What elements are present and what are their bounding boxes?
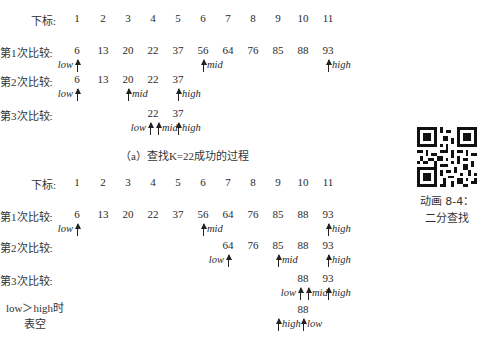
index-cell: 2: [100, 176, 106, 188]
value-cell: 64: [223, 208, 234, 220]
low-arrow-icon: [228, 255, 229, 267]
value-cell: 6: [74, 208, 80, 220]
mid-arrow-icon: [308, 288, 309, 300]
index-cell: 11: [323, 12, 334, 24]
value-cell: 13: [98, 44, 109, 56]
low-pointer-label: low: [281, 287, 296, 298]
row-label: 第2次比较:: [0, 73, 53, 89]
index-cell: 3: [125, 12, 131, 24]
index-cell: 8: [250, 176, 256, 188]
high-arrow-icon: [328, 255, 329, 267]
index-cell: 9: [275, 176, 281, 188]
value-cell: 56: [198, 44, 209, 56]
index-cell: 1: [74, 176, 80, 188]
value-cell: 64: [223, 239, 234, 251]
low-arrow-icon: [150, 123, 151, 135]
value-cell: 76: [248, 239, 259, 251]
high-arrow-icon: [278, 319, 279, 331]
index-cell: 10: [298, 176, 309, 188]
index-cell: 4: [150, 176, 156, 188]
index-cell: 10: [298, 12, 309, 24]
high-pointer-label: high: [182, 122, 201, 133]
value-cell: 88: [298, 303, 309, 315]
value-cell: 88: [298, 208, 309, 220]
value-cell: 76: [248, 208, 259, 220]
value-cell: 13: [98, 73, 109, 85]
animation-label: 动画 8-4：: [408, 192, 486, 208]
value-cell: 88: [298, 272, 309, 284]
value-cell: 6: [74, 44, 80, 56]
value-cell: 20: [123, 73, 134, 85]
value-cell: 88: [298, 239, 309, 251]
value-cell: 37: [173, 73, 184, 85]
mid-pointer-label: mid: [207, 59, 223, 70]
low-arrow-icon: [77, 89, 78, 101]
mid-pointer-label: mid: [282, 254, 298, 265]
index-cell: 9: [275, 12, 281, 24]
index-label: 下标:: [31, 12, 56, 28]
high-pointer-label: high: [332, 59, 351, 70]
low-pointer-label: low: [58, 59, 73, 70]
index-label: 下标:: [31, 176, 56, 192]
high-arrow-icon: [178, 123, 179, 135]
value-cell: 64: [223, 44, 234, 56]
index-cell: 4: [150, 12, 156, 24]
low-pointer-label: low: [307, 318, 322, 329]
value-cell: 20: [123, 44, 134, 56]
high-pointer-label: high: [332, 254, 351, 265]
index-cell: 7: [225, 176, 231, 188]
low-arrow-icon: [303, 319, 304, 331]
index-cell: 11: [323, 176, 334, 188]
caption-a: （a）查找K=22成功的过程: [120, 147, 249, 163]
index-cell: 1: [74, 12, 80, 24]
value-cell: 85: [273, 208, 284, 220]
high-arrow-icon: [328, 60, 329, 72]
row-label: 第1次比较:: [0, 44, 53, 60]
value-cell: 76: [248, 44, 259, 56]
value-cell: 88: [298, 44, 309, 56]
low-arrow-icon: [77, 224, 78, 236]
value-cell: 6: [74, 73, 80, 85]
high-pointer-label: high: [182, 88, 201, 99]
index-cell: 8: [250, 12, 256, 24]
row-label: 第3次比较:: [0, 107, 53, 123]
low-arrow-icon: [77, 60, 78, 72]
low-pointer-label: low: [58, 88, 73, 99]
index-cell: 3: [125, 176, 131, 188]
mid-arrow-icon: [158, 123, 159, 135]
index-cell: 5: [175, 176, 181, 188]
low-pointer-label: low: [209, 254, 224, 265]
value-cell: 93: [323, 44, 334, 56]
value-cell: 37: [173, 44, 184, 56]
index-cell: 6: [200, 176, 206, 188]
index-cell: 5: [175, 12, 181, 24]
value-cell: 22: [148, 208, 159, 220]
mid-pointer-label: mid: [207, 223, 223, 234]
high-pointer-label: high: [332, 223, 351, 234]
mid-pointer-label: mid: [132, 88, 148, 99]
high-pointer-label: high: [282, 318, 301, 329]
index-cell: 6: [200, 12, 206, 24]
value-cell: 93: [323, 272, 334, 284]
value-cell: 56: [198, 208, 209, 220]
mid-arrow-icon: [203, 224, 204, 236]
value-cell: 13: [98, 208, 109, 220]
low-arrow-icon: [300, 288, 301, 300]
value-cell: 20: [123, 208, 134, 220]
qr-code-icon[interactable]: [417, 127, 477, 187]
index-cell: 2: [100, 12, 106, 24]
row-label: low＞high时 表空: [0, 299, 70, 331]
high-arrow-icon: [178, 89, 179, 101]
row-label: 第1次比较:: [0, 208, 53, 224]
high-arrow-icon: [328, 288, 329, 300]
value-cell: 22: [148, 44, 159, 56]
mid-arrow-icon: [203, 60, 204, 72]
value-cell: 22: [148, 107, 159, 119]
animation-title: 二分查找: [408, 209, 486, 225]
high-pointer-label: high: [332, 287, 351, 298]
row-label: 第3次比较:: [0, 272, 53, 288]
value-cell: 37: [173, 208, 184, 220]
value-cell: 85: [273, 239, 284, 251]
row-label: 第2次比较:: [0, 239, 53, 255]
low-pointer-label: low: [131, 122, 146, 133]
